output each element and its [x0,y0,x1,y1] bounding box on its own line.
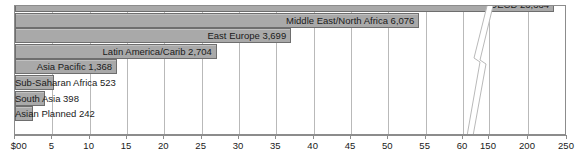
x-axis-tick [51,135,52,139]
plot-area: OECD 23,334Middle East/North Africa 6,07… [14,5,566,135]
gridline [528,6,529,134]
x-axis-line [14,135,566,136]
x-axis-tick [566,135,567,139]
x-axis-tick-label: 10 [83,140,94,151]
bar-value-label: Asia Pacific 1,368 [15,59,117,74]
x-axis-tick [163,135,164,139]
x-axis-tick-label: 50 [382,140,393,151]
gridline [426,6,427,134]
bar-value-label: OECD 23,334 [15,5,554,12]
x-axis-tick [387,135,388,139]
x-axis-tick-label: 20 [158,140,169,151]
x-axis-tick-label: $00 [11,140,27,151]
x-axis-tick-label: 35 [270,140,281,151]
x-axis-tick-label: 15 [121,140,132,151]
gridline [489,6,490,134]
x-axis-tick [462,135,463,139]
x-axis-tick [425,135,426,139]
x-axis-tick [313,135,314,139]
bar-value-label: East Europe 3,699 [15,28,291,43]
x-axis-tick [126,135,127,139]
x-axis-tick-label: 55 [419,140,430,151]
x-axis-tick [14,135,15,139]
bar-value-label: Middle East/North Africa 6,076 [15,13,419,28]
clipped-top-row [0,0,581,4]
x-axis-tick [350,135,351,139]
x-axis-tick-label: 45 [345,140,356,151]
x-axis-tick-label: 200 [519,140,535,151]
bar-value-label: South Asia 398 [15,91,45,106]
x-axis-tick [488,135,489,139]
x-axis-tick [201,135,202,139]
bar-value-label: Sub-Saharan Africa 523 [15,75,54,90]
x-axis-tick-label: 25 [195,140,206,151]
x-axis-tick [238,135,239,139]
x-axis-tick-label: 40 [307,140,318,151]
x-axis-tick [527,135,528,139]
x-axis-tick-label: 60 [457,140,468,151]
bar-value-label: Latin America/Carib 2,704 [15,44,217,59]
x-axis-tick-label: 250 [558,140,574,151]
x-axis-tick [275,135,276,139]
bar-value-label: Asian Planned 242 [15,106,33,121]
gridline [463,6,464,134]
bar-chart: OECD 23,334Middle East/North Africa 6,07… [0,0,581,160]
x-axis-tick-label: 30 [233,140,244,151]
x-axis-tick-label: 150 [480,140,496,151]
x-axis-tick-label: 5 [49,140,54,151]
x-axis-tick [89,135,90,139]
